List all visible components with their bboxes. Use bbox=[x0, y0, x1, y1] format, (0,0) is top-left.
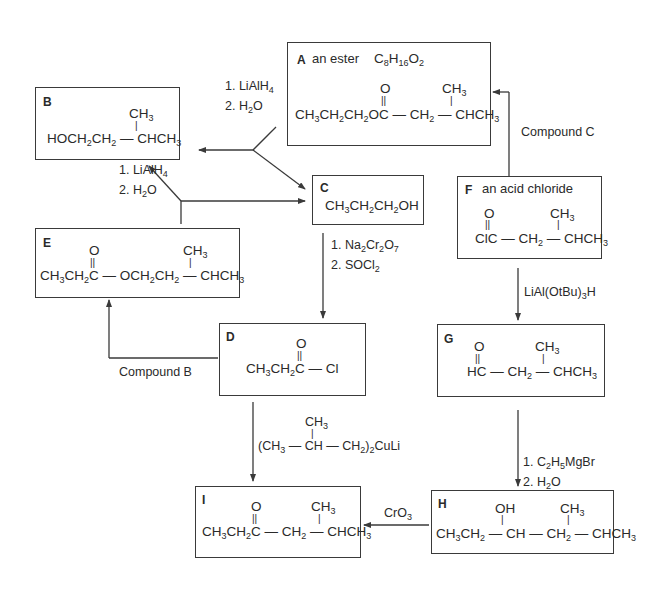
reagent-h-to-i: CrO3 bbox=[384, 503, 412, 523]
main-chain: CH3CH2C — OCH2CH2 — CHCH3 bbox=[40, 268, 244, 283]
methyl-branch: CH3 bbox=[183, 243, 208, 258]
main-chain: CH3CH2 — CH — CH2 — CHCH3 bbox=[436, 526, 636, 541]
compound-f-box: F an acid chloride O || CH3 | ClC — CH2 … bbox=[457, 176, 602, 259]
branch-bond: | bbox=[567, 514, 570, 525]
branch-bond: | bbox=[318, 513, 321, 524]
reagents-g-to-h: 1. C2H5MgBr 2. H2O bbox=[523, 452, 595, 492]
double-bond: || bbox=[90, 257, 95, 268]
compound-description: an acid chloride bbox=[482, 181, 573, 196]
main-chain: HC — CH2 — CHCH3 bbox=[467, 364, 597, 379]
reagents-e-cleavage: 1. LiAlH4 2. H2O bbox=[119, 160, 168, 200]
methyl-branch: CH3 bbox=[550, 206, 575, 221]
compound-letter: A bbox=[297, 53, 306, 67]
hydroxyl-group: OH bbox=[495, 501, 515, 516]
reagent-f-to-g: LiAl(OtBu)3H bbox=[524, 282, 596, 302]
double-bond: || bbox=[475, 353, 480, 364]
compound-d-box: D O || CH3CH2C — Cl bbox=[219, 323, 366, 396]
reagent-step-1: 1. Na2Cr2O7 bbox=[331, 235, 399, 255]
reagent-compound-c: Compound C bbox=[521, 122, 595, 142]
reagent-step-1: 1. LiAlH4 bbox=[225, 76, 274, 96]
compound-letter: F bbox=[465, 183, 472, 197]
main-chain: ClC — CH2 — CHCH3 bbox=[475, 231, 608, 246]
main-chain: CH3CH2C — Cl bbox=[246, 361, 339, 376]
carbonyl-oxygen: O bbox=[296, 336, 307, 351]
main-chain: CH3CH2C — CH2 — CHCH3 bbox=[202, 524, 371, 539]
methyl-branch: CH3 bbox=[311, 499, 336, 514]
double-bond: || bbox=[381, 95, 386, 106]
reagents-c-to-d: 1. Na2Cr2O7 2. SOCl2 bbox=[331, 235, 399, 275]
carbonyl-oxygen: O bbox=[474, 339, 485, 354]
cuprate-main: (CH3 — CH — CH2)2CuLi bbox=[258, 439, 400, 453]
main-chain: HOCH2CH2 — CHCH3 bbox=[47, 131, 181, 146]
reagent-compound-b: Compound B bbox=[119, 362, 192, 382]
hydroxyl-bond: | bbox=[501, 514, 504, 525]
double-bond: || bbox=[297, 350, 302, 361]
compound-letter: B bbox=[43, 95, 52, 109]
reagent-step-1: 1. LiAlH4 bbox=[119, 160, 168, 180]
compound-letter: H bbox=[438, 497, 447, 511]
branch-bond: | bbox=[557, 219, 560, 230]
carbonyl-oxygen: O bbox=[380, 81, 391, 96]
compound-b-box: B CH3 | HOCH2CH2 — CHCH3 bbox=[35, 87, 180, 160]
methyl-branch: CH3 bbox=[442, 81, 467, 96]
compound-letter: I bbox=[202, 493, 205, 507]
reagent-d-to-i: CH3 | (CH3 — CH — CH2)2CuLi bbox=[258, 415, 400, 453]
compound-h-box: H OH | CH3 | CH3CH2 — CH — CH2 — CHCH3 bbox=[431, 490, 614, 554]
compound-e-box: E O || CH3 | CH3CH2C — OCH2CH2 — CHCH3 bbox=[35, 228, 240, 298]
reagent-step-1: 1. C2H5MgBr bbox=[523, 452, 595, 472]
carbonyl-oxygen: O bbox=[89, 243, 100, 258]
compound-letter: D bbox=[226, 330, 235, 344]
reagent-step-2: 2. H2O bbox=[225, 96, 274, 116]
compound-letter: C bbox=[320, 181, 329, 195]
branch-bond: | bbox=[135, 120, 138, 131]
methyl-branch: CH3 bbox=[535, 339, 560, 354]
molecular-formula: C8H16O2 bbox=[374, 51, 424, 66]
compound-description: an ester bbox=[312, 51, 359, 66]
cuprate-branch: CH3 bbox=[258, 415, 400, 429]
compound-i-box: I O || CH3 | CH3CH2C — CH2 — CHCH3 bbox=[195, 486, 361, 558]
compound-letter: E bbox=[43, 236, 51, 250]
main-chain: CH3CH2CH2OH bbox=[325, 198, 419, 213]
main-chain: CH3CH2CH2OC — CH2 — CHCH3 bbox=[295, 107, 499, 122]
compound-letter: G bbox=[444, 332, 453, 346]
compound-g-box: G O || CH3 | HC — CH2 — CHCH3 bbox=[437, 324, 605, 397]
methyl-branch: CH3 bbox=[129, 106, 154, 121]
reagents-a-cleavage: 1. LiAlH4 2. H2O bbox=[225, 76, 274, 116]
reagent-step-2: 2. H2O bbox=[119, 180, 168, 200]
carbonyl-oxygen: O bbox=[251, 499, 262, 514]
branch-bond: | bbox=[542, 353, 545, 364]
branch-bond: | bbox=[450, 95, 453, 106]
compound-a-box: A an ester C8H16O2 O || CH3 | CH3CH2CH2O… bbox=[287, 42, 491, 146]
reagent-step-2: 2. H2O bbox=[523, 472, 595, 492]
double-bond: || bbox=[252, 513, 257, 524]
cuprate-branch-bond: | bbox=[258, 429, 400, 439]
compound-c-box: C CH3CH2CH2OH bbox=[312, 175, 424, 225]
double-bond: || bbox=[485, 219, 490, 230]
branch-bond: | bbox=[189, 257, 192, 268]
methyl-branch: CH3 bbox=[560, 501, 585, 516]
reagent-step-2: 2. SOCl2 bbox=[331, 255, 399, 275]
